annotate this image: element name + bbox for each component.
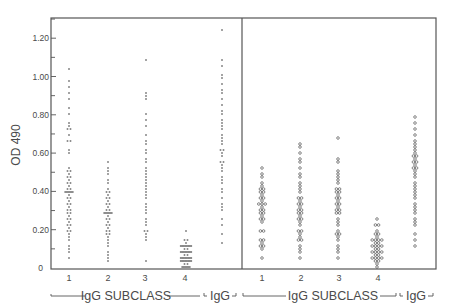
data-point	[68, 122, 70, 123]
data-point	[415, 167, 418, 170]
data-point	[262, 230, 265, 233]
data-point	[261, 173, 264, 176]
data-point	[145, 182, 147, 183]
data-point	[68, 134, 70, 135]
data-point	[109, 191, 111, 192]
data-point	[221, 89, 223, 90]
data-point	[187, 248, 189, 249]
data-point	[70, 188, 72, 189]
data-point	[220, 161, 222, 162]
data-point	[106, 218, 108, 219]
data-point	[262, 191, 265, 194]
data-point	[377, 251, 380, 254]
data-point	[145, 167, 147, 168]
data-point	[106, 224, 108, 225]
data-point	[107, 179, 109, 180]
data-point	[337, 248, 340, 251]
data-point	[261, 215, 264, 218]
data-point	[262, 188, 265, 191]
data-point	[145, 212, 147, 213]
data-point	[337, 257, 340, 260]
data-point	[335, 233, 338, 236]
data-point	[145, 119, 147, 120]
data-point	[299, 143, 302, 146]
data-point	[107, 206, 109, 207]
data-point	[70, 218, 72, 219]
data-point	[186, 245, 189, 246]
data-point	[264, 203, 267, 206]
data-point	[68, 257, 70, 258]
data-point	[261, 248, 264, 251]
data-point	[221, 125, 223, 126]
right-panel-points	[258, 116, 418, 269]
y-tick-label: 0.40	[32, 186, 49, 196]
data-point	[335, 188, 338, 191]
data-point	[145, 173, 147, 174]
data-point	[64, 191, 67, 192]
data-point	[68, 98, 70, 99]
data-point	[300, 209, 303, 212]
data-point	[145, 185, 147, 186]
data-point	[381, 257, 384, 260]
data-point	[376, 263, 379, 266]
data-point	[145, 113, 147, 114]
data-point	[335, 203, 338, 206]
data-point	[145, 143, 147, 144]
data-point	[145, 152, 147, 153]
data-point	[180, 257, 183, 258]
data-point	[189, 245, 192, 246]
data-point	[221, 218, 223, 219]
data-point	[221, 233, 223, 234]
data-point	[338, 197, 341, 200]
data-point	[414, 134, 417, 137]
data-point	[70, 128, 72, 129]
data-point	[299, 185, 302, 188]
data-point	[107, 260, 109, 261]
data-point	[187, 263, 189, 264]
data-point	[300, 212, 303, 215]
data-point	[221, 113, 223, 114]
data-point	[371, 245, 374, 248]
data-point	[259, 218, 262, 221]
data-point	[106, 209, 108, 210]
data-point	[414, 158, 417, 161]
data-point	[221, 182, 223, 183]
data-point	[299, 188, 302, 191]
data-point	[106, 212, 109, 213]
data-point	[109, 197, 111, 198]
data-point	[145, 176, 147, 177]
data-point	[337, 224, 340, 227]
data-point	[299, 191, 302, 194]
data-point	[70, 212, 72, 213]
data-point	[338, 233, 341, 236]
data-point	[337, 236, 340, 239]
data-point	[299, 200, 302, 203]
data-point	[262, 239, 265, 242]
data-point	[221, 197, 223, 198]
y-axis-label: OD 490	[9, 124, 23, 166]
data-point	[145, 170, 147, 171]
data-point	[223, 161, 225, 162]
data-point	[221, 110, 223, 111]
data-point	[67, 188, 69, 189]
data-point	[415, 155, 418, 158]
right-subclass-group-label: IgG SUBCLASS	[288, 289, 378, 303]
data-point	[414, 212, 417, 215]
data-point	[261, 206, 264, 209]
data-point	[262, 218, 265, 221]
x-label-left-1: 1	[66, 273, 71, 283]
data-point	[186, 257, 189, 258]
data-point	[300, 218, 303, 221]
data-point	[414, 122, 417, 125]
data-point	[68, 194, 70, 195]
data-point	[335, 209, 338, 212]
data-point	[412, 161, 415, 164]
data-point	[414, 245, 417, 248]
data-point	[412, 167, 415, 170]
data-point	[374, 233, 377, 236]
data-point	[414, 233, 417, 236]
data-point	[145, 221, 147, 222]
data-point	[374, 242, 377, 245]
data-point	[221, 128, 223, 129]
data-point	[107, 194, 109, 195]
